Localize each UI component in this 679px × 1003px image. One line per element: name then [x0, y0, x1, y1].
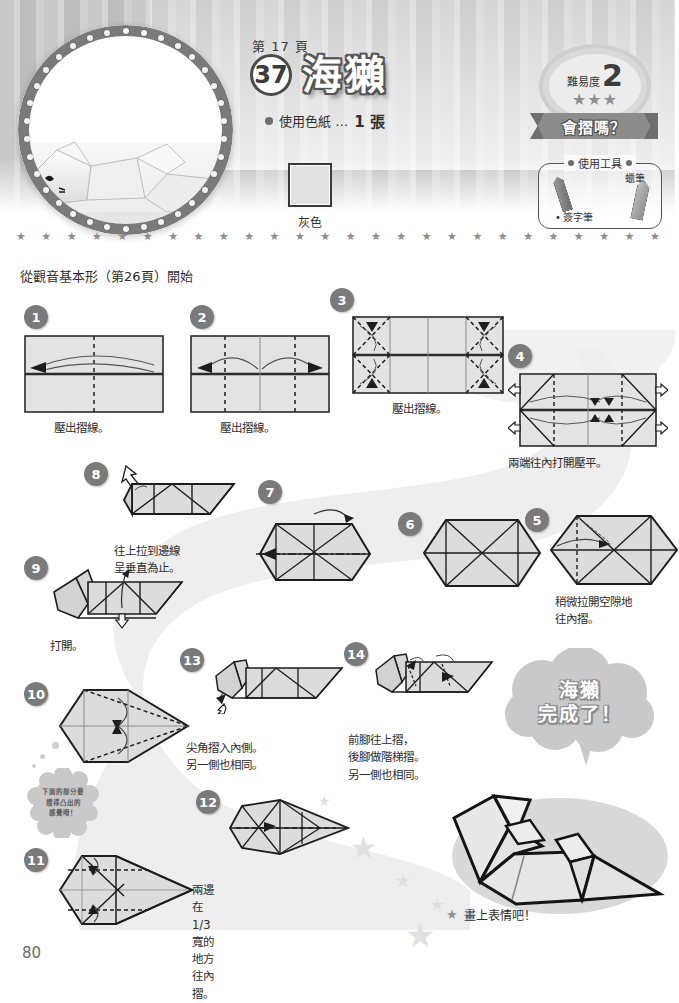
color-swatch [288, 163, 332, 207]
step-1-diagram [24, 335, 164, 413]
ribbon-text: 會摺嗎？ [530, 113, 658, 139]
step-1-caption: 壓出摺線。 [54, 420, 164, 437]
step-number: 11 [24, 848, 48, 872]
step-number: 8 [84, 462, 108, 486]
hint-bubble-text: 下面的部分要 摺得凸出的 感覺唷！ [42, 787, 84, 818]
step-4-diagram [508, 372, 668, 448]
decorative-star: ★ [405, 915, 435, 955]
step-4: 4 兩端往內打開壓 [508, 344, 668, 472]
step-11-diagram [54, 852, 194, 928]
completion-name: 海獺 [559, 680, 601, 702]
decorative-star: ★ [395, 870, 411, 891]
step-number: 7 [258, 480, 282, 504]
step-5-caption: 稍微拉開空隙地 往內摺。 [555, 594, 679, 629]
tools-box: 使用工具 蠟筆 簽字筆 [538, 163, 662, 229]
paper-requirement: 使用色紙 … 1 張 [265, 110, 385, 131]
color-swatch-label: 灰色 [288, 213, 332, 230]
ribbon-banner: 會摺嗎？ [530, 113, 658, 139]
step-3-caption: 壓出摺線。 [392, 401, 504, 418]
step-10-diagram [54, 686, 190, 766]
bullet-dot-icon [265, 117, 273, 125]
star-divider: ★ ★ ★ ★ ★ ★ ★ ★ ★ ★ ★ ★ ★ ★ ★ ★ ★ ★ ★ ★ … [16, 230, 664, 243]
completion-done: 完成了！ [538, 704, 622, 726]
step-5-diagram [549, 512, 679, 588]
step-3-diagram [352, 316, 504, 394]
step-13-diagram [206, 658, 346, 714]
final-note-text: 畫上表情吧！ [464, 906, 536, 923]
step-14-diagram [370, 652, 496, 708]
crayon-label: 蠟筆 [625, 170, 645, 185]
step-number: 9 [24, 556, 48, 580]
step-number: 3 [330, 288, 354, 312]
step-9: 9 打開。 [24, 556, 188, 655]
marker-pen-icon [552, 175, 574, 213]
step-13: 13 尖角摺入內側。 另一側也相同。 [180, 648, 346, 775]
step-number: 4 [508, 344, 532, 368]
intro-instruction: 從觀音基本形（第26頁）開始 [20, 266, 193, 285]
difficulty-label: 難易度 [567, 73, 600, 89]
color-swatch-group: 灰色 [288, 163, 332, 230]
step-number: 12 [196, 790, 220, 814]
step-7-diagram [254, 508, 374, 584]
step-number: 1 [24, 305, 48, 329]
step-14-caption: 前腳往上摺， 後腳做階梯摺。 另一側也相同。 [348, 732, 496, 784]
difficulty-level: 2 [602, 64, 623, 88]
hint-bubble: 下面的部分要 摺得凸出的 感覺唷！ [26, 768, 100, 838]
step-13-caption: 尖角摺入內側。 另一側也相同。 [186, 740, 346, 775]
step-4-caption: 兩端往內打開壓平。 [508, 455, 668, 472]
paper-label: 使用色紙 … [279, 111, 348, 130]
title-row: 37 海獺 [250, 54, 388, 96]
step-number: 14 [344, 642, 368, 666]
bullet-dot-icon [568, 160, 574, 166]
step-12-diagram [224, 796, 350, 860]
step-3: 3 壓出摺線。 [330, 288, 504, 418]
difficulty-stars: ★★★ [572, 90, 618, 109]
star-icon: ★ [446, 907, 458, 922]
bullet-dot-icon [626, 160, 632, 166]
step-1: 1 壓出摺線。 [24, 305, 164, 437]
final-model-illustration [432, 782, 672, 922]
tools-title: 使用工具 [578, 155, 622, 171]
paper-count: 1 張 [354, 110, 385, 131]
finished-model-photo [18, 25, 233, 235]
step-14: 14 前腳往上摺， 後腳做階梯摺。 另一側也相同。 [344, 642, 496, 784]
page-reference: 第 17 頁 [252, 36, 309, 55]
step-2: 2 壓出摺線。 [190, 305, 330, 437]
step-9-diagram [48, 566, 188, 632]
final-note: ★ 畫上表情吧！ [446, 906, 536, 923]
step-6-diagram [422, 516, 542, 590]
step-8-diagram [110, 464, 240, 536]
step-number: 6 [398, 512, 422, 536]
page-number: 80 [22, 944, 41, 962]
step-7: 7 [258, 480, 374, 584]
step-number: 13 [180, 648, 204, 672]
step-5: 5 稍微拉開空隙地 往內摺。 [525, 508, 679, 629]
crayon-icon [630, 179, 651, 221]
step-10: 10 [24, 682, 190, 766]
photo-dot-ring [18, 25, 233, 235]
step-12: 12 [196, 790, 350, 860]
step-2-diagram [190, 335, 330, 413]
completion-bubble: 海獺 完成了！ [500, 648, 660, 768]
step-6: 6 [398, 512, 542, 590]
marker-label: 簽字筆 [555, 209, 593, 224]
step-number: 2 [190, 305, 214, 329]
step-11: 11 兩邊在1/3寬的 地方往內摺。 [24, 848, 194, 928]
page-title: 海獺 [302, 55, 388, 95]
step-11-caption: 兩邊在1/3寬的 地方往內摺。 [192, 882, 214, 1003]
model-number-badge: 37 [250, 54, 292, 96]
decorative-star: ★ [350, 830, 377, 865]
step-number: 10 [24, 682, 48, 706]
step-2-caption: 壓出摺線。 [220, 420, 330, 437]
step-9-caption: 打開。 [50, 638, 188, 655]
tools-title-row: 使用工具 [564, 155, 636, 171]
completion-text: 海獺 完成了！ [500, 648, 660, 768]
